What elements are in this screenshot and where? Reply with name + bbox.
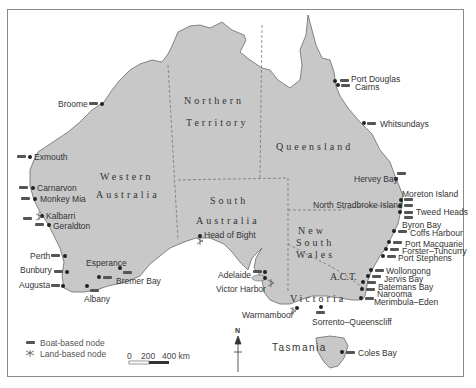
label-sorrento: Sorrento–Queenscliff xyxy=(312,318,392,327)
jervis-bay-dot xyxy=(366,274,370,278)
bunbury-dot xyxy=(65,270,69,274)
label-bremer-bay: Bremer Bay xyxy=(116,277,161,286)
monkey-mia-dot xyxy=(33,197,37,201)
coles-bay-dot xyxy=(340,350,344,354)
head-of-bight-dot xyxy=(198,234,202,238)
adelaide-dot xyxy=(263,270,267,274)
label-north-stradbroke: North Stradbroke Island xyxy=(313,201,403,210)
wollongong-dot xyxy=(369,268,373,272)
label-geraldton: Geraldton xyxy=(53,222,90,231)
batemans-bay-dot xyxy=(361,280,365,284)
tweed-heads-dot xyxy=(398,210,402,214)
north-label: N xyxy=(235,327,240,334)
port-douglas-dot xyxy=(333,79,337,83)
label-albany: Albany xyxy=(84,295,110,304)
label-whitsundays: Whitsundays xyxy=(380,120,429,129)
port-macquarie-dot xyxy=(387,240,391,244)
label-cairns: Cairns xyxy=(355,83,380,92)
warrnambool-dot xyxy=(295,306,299,310)
label-wollongong: Wollongong xyxy=(386,267,431,276)
victor-harbor-dot xyxy=(263,276,267,280)
narooma-dot xyxy=(360,287,364,291)
sorrento-dot xyxy=(319,305,323,309)
north-arrow-icon xyxy=(234,336,242,372)
label-perth: Perth xyxy=(30,252,50,261)
label-esperance: Esperance xyxy=(86,259,127,268)
geraldton-dot xyxy=(47,223,51,227)
bremer-bay-dot xyxy=(97,275,101,279)
label-coffs-harbour: Coffs Harbour xyxy=(410,229,463,238)
label-jervis-bay: Jervis Bay xyxy=(384,275,423,284)
whitsundays-dot xyxy=(362,121,366,125)
label-augusta: Augusta xyxy=(19,281,50,290)
label-byron-bay: Byron Bay xyxy=(402,221,441,230)
scale-bar xyxy=(129,361,169,364)
label-victor-harbor: Victor Harbor xyxy=(216,285,266,294)
label-broome: Broome xyxy=(58,100,88,109)
label-head-of-bight: Head of Bight xyxy=(204,231,256,240)
label-adelaide: Adelaide xyxy=(218,271,251,280)
scale-label-mid: 200 xyxy=(141,352,155,361)
scale-label-zero: 0 xyxy=(127,352,132,361)
scale-label-max: 400 km xyxy=(162,352,190,361)
legend-boat-label: Boat-based node xyxy=(40,339,105,348)
label-coles-bay: Coles Bay xyxy=(358,349,397,358)
boat-icons xyxy=(17,79,413,354)
broome-dot xyxy=(100,102,104,106)
carnarvon-dot xyxy=(31,186,35,190)
legend-land-label: Land-based node xyxy=(40,350,106,359)
label-monkey-mia: Monkey Mia xyxy=(40,195,86,204)
label-carnarvon: Carnarvon xyxy=(37,184,77,193)
label-port-macquarie: Port Macquarie xyxy=(405,240,463,249)
legend-land-icon xyxy=(26,350,34,357)
cairns-dot xyxy=(336,83,340,87)
label-hervey-bay: Hervey Bay xyxy=(354,175,398,184)
label-port-douglas: Port Douglas xyxy=(351,75,400,84)
label-exmouth: Exmouth xyxy=(34,153,68,162)
coffs-harbour-dot xyxy=(392,229,396,233)
port-stephens-dot xyxy=(381,254,385,258)
label-tweed-heads: Tweed Heads xyxy=(416,208,468,217)
albany-dot xyxy=(85,284,89,288)
exmouth-dot xyxy=(28,155,32,159)
merimbula-dot xyxy=(359,296,363,300)
label-merimbula: Merimbula–Eden xyxy=(374,298,438,307)
perth-dot xyxy=(63,254,67,258)
label-batemans-bay: Batemans Bay xyxy=(378,283,433,292)
augusta-dot xyxy=(61,284,65,288)
legend-boat-icon xyxy=(26,341,35,344)
label-kalbarri: Kalbarri xyxy=(46,212,75,221)
label-moreton-island: Moreton Island xyxy=(402,190,458,199)
label-warrnambool: Warrnambool xyxy=(242,311,293,320)
label-bunbury: Bunbury xyxy=(20,266,52,275)
forster-dot xyxy=(384,247,388,251)
